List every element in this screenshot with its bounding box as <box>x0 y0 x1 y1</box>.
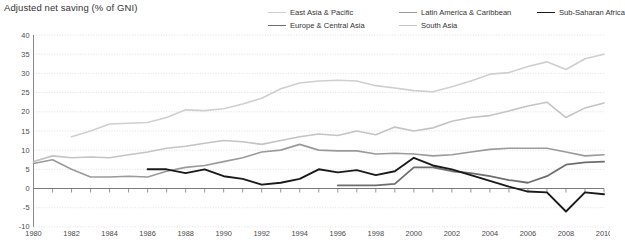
y-tick-label: -5 <box>23 203 30 212</box>
x-tick-label: 2000 <box>406 229 422 238</box>
x-tick-label: 2010 <box>596 229 610 238</box>
series-line-europe-central-asia <box>338 162 604 186</box>
y-tick-label: 35 <box>21 50 29 59</box>
x-axis-tick-labels: 1980198219841986198819901992199419961998… <box>25 229 610 238</box>
y-tick-label: 5 <box>25 165 29 174</box>
y-tick-label: 0 <box>25 184 29 193</box>
y-tick-label: 10 <box>21 146 29 155</box>
x-tick-label: 1994 <box>292 229 308 238</box>
x-tick-label: 1980 <box>25 229 41 238</box>
x-tick-label: 1990 <box>215 229 231 238</box>
x-tick-label: 2004 <box>482 229 498 238</box>
series-line-latin-america-caribbean <box>34 144 605 177</box>
x-tick-label: 1992 <box>253 229 269 238</box>
x-tick-label: 2002 <box>444 229 460 238</box>
x-tick-label: 1986 <box>139 229 155 238</box>
x-tick-label: 1984 <box>101 229 117 238</box>
x-tick-label: 2006 <box>520 229 536 238</box>
y-tick-label: 25 <box>21 88 29 97</box>
x-tick-label: 1988 <box>177 229 193 238</box>
series-line-east-asia-pacific <box>72 54 604 137</box>
series-line-south-asia <box>34 102 605 161</box>
y-tick-label: 20 <box>21 107 29 116</box>
y-axis-tick-labels: -10-50510152025303540 <box>19 31 30 232</box>
x-tick-label: 1982 <box>63 229 79 238</box>
y-tick-label: 30 <box>21 69 29 78</box>
x-tick-label: 1996 <box>330 229 346 238</box>
x-tick-label: 1998 <box>368 229 384 238</box>
y-tick-label: 40 <box>21 31 29 40</box>
y-tick-label: 15 <box>21 127 29 136</box>
y-gridlines <box>34 35 605 227</box>
x-tick-label: 2008 <box>558 229 574 238</box>
